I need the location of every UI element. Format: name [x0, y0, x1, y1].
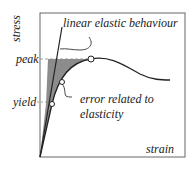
- linear-pointer-arrow: [60, 37, 91, 50]
- yield-tick-label: yield: [13, 96, 36, 108]
- error-pointer-line: [62, 84, 72, 97]
- plot-frame: [40, 13, 185, 157]
- linear-elastic-annotation: linear elastic behaviour: [63, 17, 178, 29]
- peak-tick-label: peak: [16, 53, 39, 65]
- error-annotation-line2: elasticity: [80, 108, 123, 120]
- y-axis-label: stress: [10, 15, 22, 42]
- yield-point: [50, 102, 55, 107]
- error-point: [60, 80, 65, 85]
- error-annotation-line1: error related to: [80, 93, 154, 105]
- peak-point: [88, 56, 94, 62]
- x-axis-label: strain: [146, 143, 174, 155]
- linear-elastic-line: [40, 27, 62, 157]
